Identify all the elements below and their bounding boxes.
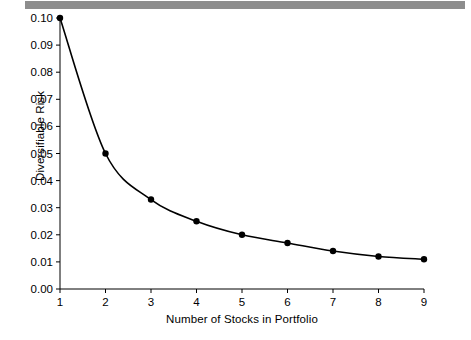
x-tick-label: 7 — [323, 296, 343, 308]
chart-figure: Diversifiable Risk Number of Stocks in P… — [0, 0, 471, 340]
y-tick-label: 0.06 — [19, 120, 53, 132]
data-point-marker — [330, 248, 336, 254]
y-tick-label: 0.00 — [19, 283, 53, 295]
y-tick-label: 0.02 — [19, 229, 53, 241]
x-tick-label: 9 — [414, 296, 434, 308]
data-point-markers — [57, 15, 427, 263]
x-tick-label: 3 — [141, 296, 161, 308]
y-tick-label: 0.01 — [19, 256, 53, 268]
x-tick-label: 4 — [187, 296, 207, 308]
x-tick-label: 8 — [369, 296, 389, 308]
x-tick-label: 2 — [96, 296, 116, 308]
data-point-marker — [148, 196, 154, 202]
y-tick-label: 0.10 — [19, 12, 53, 24]
x-tick-label: 6 — [278, 296, 298, 308]
data-point-marker — [102, 150, 108, 156]
data-point-marker — [193, 218, 199, 224]
data-point-marker — [57, 15, 63, 21]
x-tick-label: 1 — [50, 296, 70, 308]
y-tick-label: 0.04 — [19, 175, 53, 187]
data-point-marker — [284, 240, 290, 246]
x-axis-title: Number of Stocks in Portfolio — [60, 313, 424, 325]
y-tick-label: 0.03 — [19, 202, 53, 214]
y-tick-label: 0.08 — [19, 66, 53, 78]
y-tick-marks — [56, 18, 60, 289]
data-series-line — [60, 18, 424, 259]
y-tick-label: 0.09 — [19, 39, 53, 51]
x-tick-label: 5 — [232, 296, 252, 308]
x-tick-marks — [60, 289, 424, 293]
data-point-marker — [375, 253, 381, 259]
data-point-marker — [421, 256, 427, 262]
plot-area — [0, 0, 471, 340]
y-tick-label: 0.07 — [19, 93, 53, 105]
data-point-marker — [239, 232, 245, 238]
y-tick-label: 0.05 — [19, 148, 53, 160]
